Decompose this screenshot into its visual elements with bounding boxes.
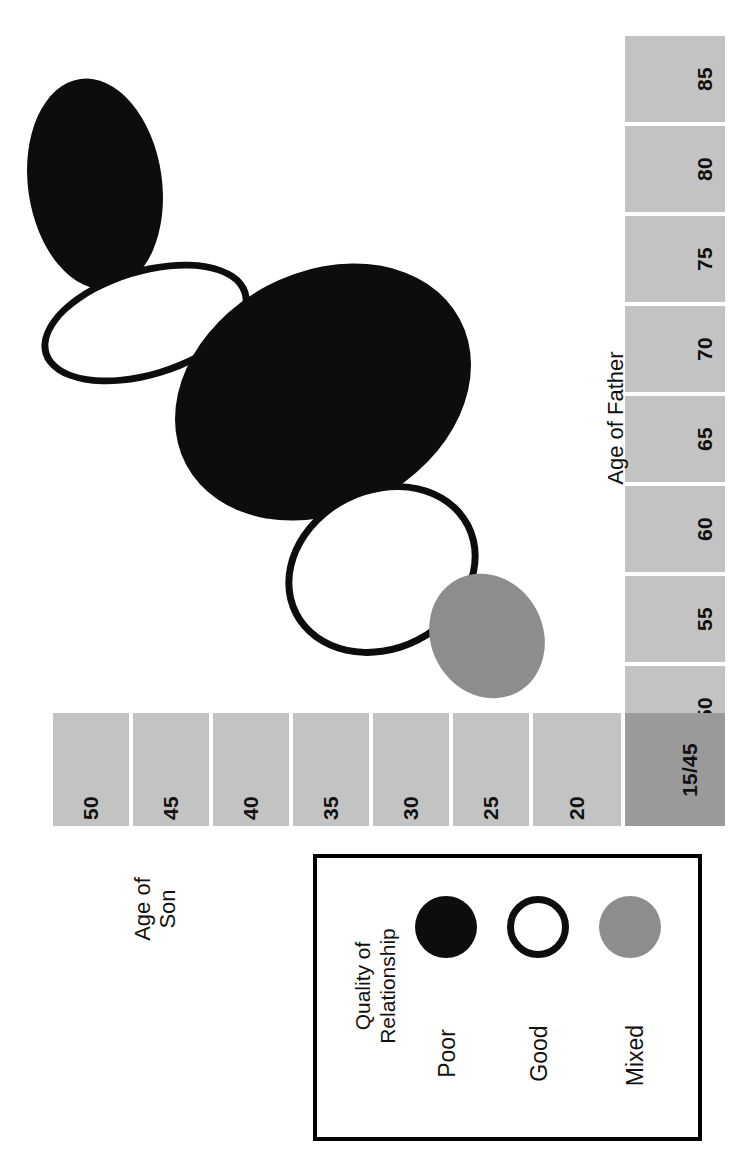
y-axis-tick-label: 35 — [319, 796, 343, 820]
bubble-poor-main — [130, 213, 516, 570]
x-axis-tick-label: 60 — [693, 517, 717, 541]
x-axis-tick-label: 65 — [693, 427, 717, 451]
legend-label: Good — [526, 1016, 553, 1092]
y-axis-tick-20: 20 — [533, 713, 621, 826]
x-axis-tick-label: 55 — [693, 607, 717, 631]
bubble-mixed — [408, 553, 567, 719]
y-axis-tick-label: 50 — [79, 796, 103, 820]
x-axis-tick-label: 85 — [693, 67, 717, 91]
y-axis-tick-50: 50 — [53, 713, 129, 826]
y-axis-tick-label: 25 — [479, 796, 503, 820]
x-axis-tick-85: 85 — [625, 36, 725, 122]
x-axis-tick-label: 15/45 — [678, 743, 702, 797]
bubble-good-main — [255, 451, 508, 689]
y-axis-tick-label: 20 — [565, 796, 589, 820]
y-axis-tick-35: 35 — [293, 713, 369, 826]
y-axis-tick-40: 40 — [213, 713, 289, 826]
legend-label: Poor — [434, 1016, 461, 1092]
x-axis-tick-75: 75 — [625, 216, 725, 302]
legend-swatch-good-icon — [507, 896, 569, 958]
bubble-poor-older — [14, 70, 176, 299]
rotated-bubble-chart-figure: 85 80 75 70 65 60 55 50 15/45 Age of Fat… — [0, 0, 741, 1163]
legend-swatch-poor-icon — [415, 896, 477, 958]
x-axis-title: Age of Father — [604, 328, 632, 508]
x-axis-tick-label: 70 — [693, 337, 717, 361]
y-axis-tick-label: 45 — [159, 796, 183, 820]
x-axis-tick-60: 60 — [625, 486, 725, 572]
legend-label: Mixed — [622, 1010, 649, 1102]
x-axis-tick-55: 55 — [625, 576, 725, 662]
x-axis-tick-label: 75 — [693, 247, 717, 271]
y-axis-tick-30: 30 — [373, 713, 449, 826]
y-axis-tick-label: 30 — [399, 796, 423, 820]
y-axis-tick-label: 40 — [239, 796, 263, 820]
y-axis-title: Age of Son — [131, 857, 189, 961]
y-axis-tick-45: 45 — [133, 713, 209, 826]
x-axis-tick-80: 80 — [625, 126, 725, 212]
legend-swatch-mixed-icon — [599, 896, 661, 958]
x-axis-tick-70: 70 — [625, 306, 725, 392]
legend-title: Quality of Relationship — [351, 896, 407, 1076]
bubble-good-older — [27, 239, 265, 407]
axis-origin-cell-15-45: 15/45 — [625, 713, 725, 826]
legend: Quality of Relationship Poor Good Mixed — [313, 854, 702, 1141]
y-axis-tick-25: 25 — [453, 713, 529, 826]
x-axis-tick-label: 80 — [693, 157, 717, 181]
x-axis-tick-65: 65 — [625, 396, 725, 482]
